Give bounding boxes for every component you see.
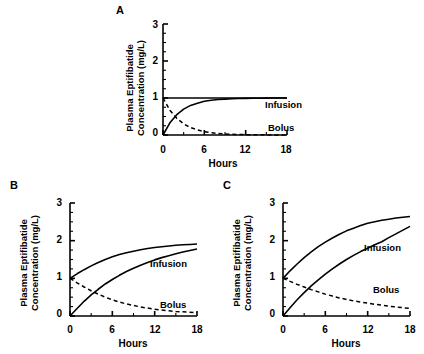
panel-a-plot (0, 0, 424, 175)
panel-c-plot (212, 175, 424, 354)
series-curve-bolus (283, 278, 410, 308)
panel-c: C Plasma Eptifibatide Concentration (mg/… (212, 175, 424, 354)
panel-b-plot (0, 175, 212, 354)
series-curve-bolus (70, 278, 197, 312)
axis-lines (70, 203, 197, 316)
figure-panel-group: A Plasma Eptifibatide Concentration (mg/… (0, 0, 424, 354)
series-curve-bolus-plus-infusion (70, 244, 197, 278)
series-curve-infusion (163, 98, 287, 135)
panel-b: B Plasma Eptifibatide Concentration (mg/… (0, 175, 212, 354)
series-curve-bolus (163, 98, 287, 135)
series-curve-bolus-plus-infusion (283, 217, 410, 279)
panel-a: A Plasma Eptifibatide Concentration (mg/… (0, 0, 424, 175)
series-curve-infusion (283, 226, 410, 316)
series-curve-infusion (70, 249, 197, 316)
axis-lines (163, 24, 287, 135)
